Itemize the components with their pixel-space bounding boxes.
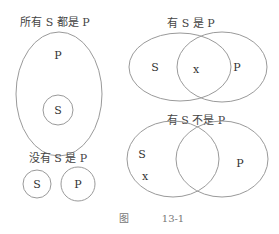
label-x-mark: x [142, 170, 149, 183]
diagram-some-s-are-p: 有 S 是 P S x P [129, 16, 267, 102]
venn-figure: 所有 S 都是 P P S 有 S 是 P S x P 没有 S 是 P S P… [0, 0, 279, 234]
caption-prefix: 图 [119, 213, 129, 224]
label-s: S [138, 148, 146, 161]
set-p-ellipse [177, 32, 267, 102]
set-s-ellipse [129, 33, 231, 101]
label-x-overlap: x [193, 63, 200, 76]
diagram-some-s-not-p: 有 S 不是 P S x P [127, 113, 268, 197]
set-p-ellipse [176, 121, 268, 197]
label-p: P [236, 157, 244, 170]
label-p: P [233, 61, 241, 74]
label-s: S [151, 61, 159, 74]
label-s: S [33, 178, 41, 191]
title-all-s-are-p: 所有 S 都是 P [20, 15, 90, 29]
diagram-no-s-is-p: 没有 S 是 P S P [23, 151, 95, 201]
label-p: P [74, 178, 82, 191]
title-no-s-is-p: 没有 S 是 P [29, 151, 88, 165]
label-s: S [54, 104, 62, 117]
title-some-s-not-p: 有 S 不是 P [167, 113, 226, 127]
title-some-s-are-p: 有 S 是 P [167, 16, 215, 30]
label-p: P [54, 49, 62, 62]
caption-number: 13-1 [162, 213, 184, 224]
diagram-all-s-are-p: 所有 S 都是 P P S [16, 15, 102, 156]
